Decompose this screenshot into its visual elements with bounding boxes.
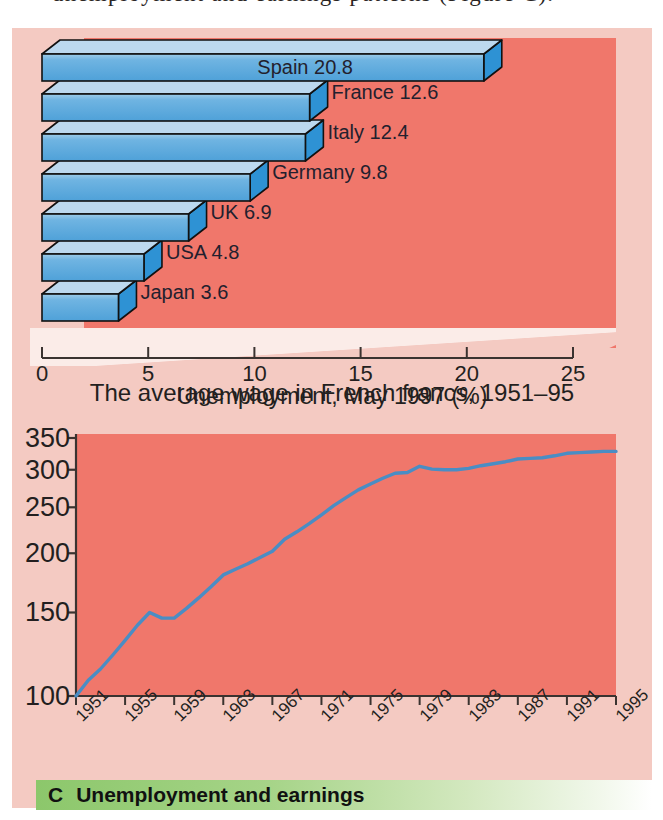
line-chart-x-tick: 1971	[317, 685, 358, 726]
line-chart-x-tick: 1983	[465, 685, 506, 726]
caption-banner: C Unemployment and earnings	[36, 780, 652, 810]
bar-value-label: USA 4.8	[166, 241, 239, 264]
line-chart-x-tick: 1967	[268, 685, 309, 726]
bar-value-label: Germany 9.8	[272, 161, 388, 184]
line-chart: 100150200250300350 195119551959196319671…	[12, 420, 652, 750]
bar-value-label: Japan 3.6	[140, 281, 228, 304]
caption-letter: C	[36, 783, 63, 807]
line-chart-x-axis-ticks: 1951195519591963196719711975197919831987…	[12, 420, 652, 750]
line-chart-x-tick: 1975	[367, 685, 408, 726]
line-chart-x-tick: 1959	[170, 685, 211, 726]
line-chart-x-tick: 1991	[563, 685, 604, 726]
line-chart-x-tick: 1995	[612, 685, 653, 726]
bar-chart-label-layer: Japan 3.6USA 4.8UK 6.9Germany 9.8Italy 1…	[12, 28, 652, 368]
bar-value-label: UK 6.9	[211, 201, 272, 224]
line-chart-x-tick: 1987	[514, 685, 555, 726]
caption-text: Unemployment and earnings	[63, 783, 364, 807]
line-chart-x-tick: 1951	[72, 685, 113, 726]
bar-value-label: France 12.6	[332, 81, 439, 104]
bar-value-label: Italy 12.4	[327, 121, 408, 144]
line-chart-x-tick: 1963	[219, 685, 260, 726]
bar-chart: Japan 3.6USA 4.8UK 6.9Germany 9.8Italy 1…	[12, 28, 652, 368]
figure-panel: Japan 3.6USA 4.8UK 6.9Germany 9.8Italy 1…	[12, 28, 652, 808]
line-chart-x-tick: 1955	[121, 685, 162, 726]
cropped-body-text-line: unemployment and earnings patterns (Figu…	[52, 0, 554, 7]
cropped-body-text: unemployment and earnings patterns (Figu…	[0, 0, 663, 14]
line-chart-axis-title: The average wage in French francs, 1951–…	[12, 379, 652, 407]
bar-value-label: Spain 20.8	[257, 56, 353, 79]
line-chart-x-tick: 1979	[416, 685, 457, 726]
